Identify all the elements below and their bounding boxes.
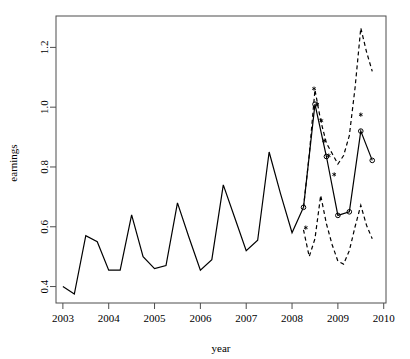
y-axis-title: earnings	[7, 144, 19, 181]
x-axis-title: year	[212, 342, 231, 354]
x-tick-label: 2007	[235, 312, 258, 324]
x-tick-label: 2005	[144, 312, 167, 324]
x-tick-label: 2010	[373, 312, 396, 324]
y-tick-label: 1.2	[38, 41, 50, 55]
plot-canvas: 20032004200520062007200820092010 0.40.60…	[0, 0, 410, 359]
x-tick-label: 2006	[189, 312, 212, 324]
x-tick-label: 2009	[327, 312, 350, 324]
y-tick-label: 1.0	[38, 100, 50, 114]
chart-background	[0, 0, 410, 359]
x-tick-label: 2008	[281, 312, 304, 324]
y-tick-label: 0.4	[38, 279, 50, 293]
earnings-forecast-chart: 20032004200520062007200820092010 0.40.60…	[0, 0, 410, 359]
y-tick-label: 0.6	[38, 219, 50, 233]
x-tick-label: 2004	[98, 312, 121, 324]
y-tick-label: 0.8	[38, 160, 50, 174]
x-tick-label: 2003	[52, 312, 75, 324]
